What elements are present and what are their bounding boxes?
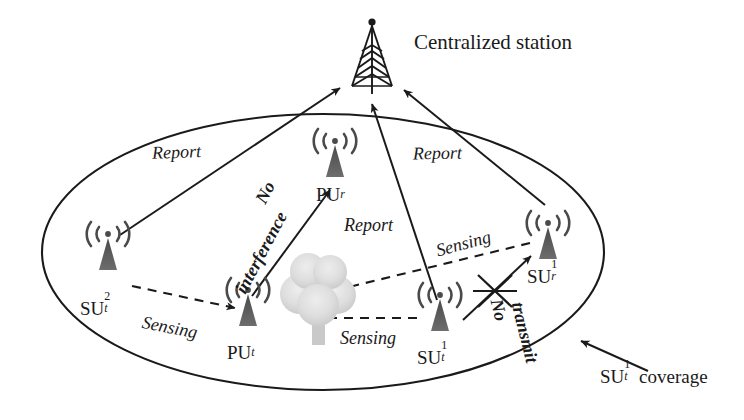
node-label-base: PU [227,342,251,363]
node-label-base: SU [80,298,104,319]
edge-label-report-right: Report [413,144,462,163]
sensing-arrow-left [132,286,235,308]
node-label-base: PU [316,184,340,205]
node-label-su-t-1: SU1t [417,345,453,367]
node-label-base: SU [527,266,551,287]
diagram-canvas: Centralized station SU2t PUt PUr SU1t SU… [0,0,744,420]
report-arrow-center [372,104,437,300]
diagram-vector-layer [0,0,744,420]
node-icon-su-t-2 [87,222,130,270]
node-icon-su-t-1 [419,283,462,331]
node-label-indices: r [340,182,352,201]
node-label-su-r-1: SU1r [527,264,563,286]
node-icon-su-r-1 [527,211,570,259]
node-label-base: SU [417,347,441,368]
node-label-su-t-2: SU2t [80,296,116,318]
coverage-callout-base: SU [600,366,624,387]
centralized-station-label: Centralized station [414,32,572,53]
edge-label-no-transmit-line1: No [488,297,511,323]
node-icon-pu-r [314,129,357,177]
node-label-indices: 1t [441,345,453,364]
coverage-callout-suffix: coverage [639,366,708,387]
coverage-callout-label: SU1tcoverage [600,364,708,386]
node-label-indices: t [251,340,263,359]
node-label-pu-r: PUr [316,182,352,204]
node-label-pu-t: PUt [227,340,263,362]
edge-label-report-left: Report [152,142,202,162]
coverage-callout-indices: 1t [624,364,636,383]
radio-tower-icon [352,18,392,94]
edge-label-sensing-center: Sensing [340,329,396,347]
node-label-indices: 2t [104,296,116,315]
edge-label-report-center: Report [344,216,393,234]
node-label-indices: 1r [551,264,563,283]
